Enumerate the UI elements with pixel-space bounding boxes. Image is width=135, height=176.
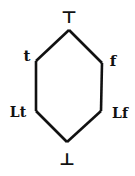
edge-lf-bottom [67,111,101,142]
node-label-bottom: ⊥ [59,149,75,169]
node-label-t: t [24,47,31,65]
edge-lt-bottom [36,111,67,142]
node-label-lf: Lf [112,105,129,121]
node-label-top: ⊤ [61,7,77,27]
edge-top-f [69,30,102,63]
lattice-diagram: ⊤ t f Lt Lf ⊥ [0,0,135,176]
edge-top-t [36,30,69,61]
node-label-lt: Lt [10,104,27,120]
edge-f-lf [101,63,102,111]
node-label-f: f [110,52,118,70]
